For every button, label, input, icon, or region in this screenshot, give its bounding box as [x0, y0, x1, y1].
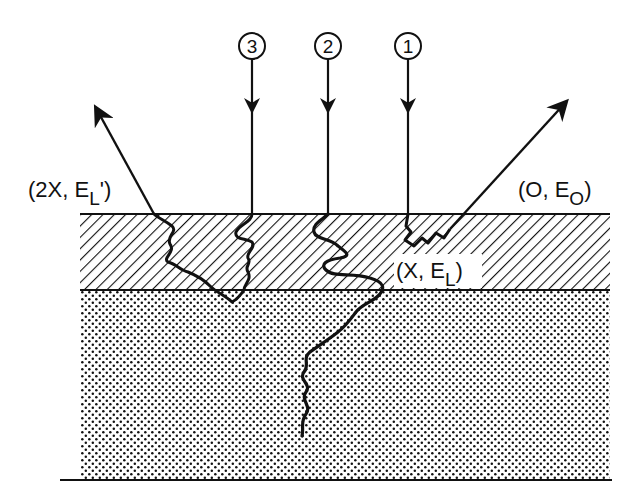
beam-2-label: 2	[323, 36, 334, 57]
substrate	[60, 291, 612, 480]
svg-text:(2X, EL'): (2X, EL')	[28, 177, 111, 209]
beam-3-label: 3	[247, 36, 258, 57]
label-surface-exit: (O, EO)	[518, 177, 591, 209]
scattering-diagram: 1 2 3 (2X, EL') (O, EO) (X, EL)	[0, 0, 630, 497]
svg-text:(O, EO): (O, EO)	[518, 177, 591, 209]
label-double-depth: (2X, EL')	[28, 177, 111, 209]
beam-1-label: 1	[403, 36, 414, 57]
